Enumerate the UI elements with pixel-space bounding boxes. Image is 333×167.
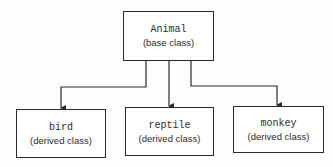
node-bird: bird (derived class) [16, 109, 106, 158]
node-reptile: reptile (derived class) [125, 107, 214, 156]
node-animal-name: Animal [150, 23, 186, 36]
node-animal-kind: (base class) [143, 36, 194, 49]
node-bird-kind: (derived class) [30, 134, 92, 147]
edge-animal-monkey [191, 61, 277, 105]
node-monkey-kind: (derived class) [248, 130, 310, 143]
node-reptile-kind: (derived class) [139, 132, 201, 145]
node-reptile-name: reptile [148, 119, 190, 132]
node-monkey-name: monkey [260, 117, 296, 130]
node-bird-name: bird [49, 121, 73, 134]
class-hierarchy-diagram: Animal (base class) bird (derived class)… [0, 0, 333, 167]
node-animal: Animal (base class) [123, 11, 214, 61]
node-monkey: monkey (derived class) [233, 106, 324, 153]
edge-animal-bird [61, 61, 146, 108]
